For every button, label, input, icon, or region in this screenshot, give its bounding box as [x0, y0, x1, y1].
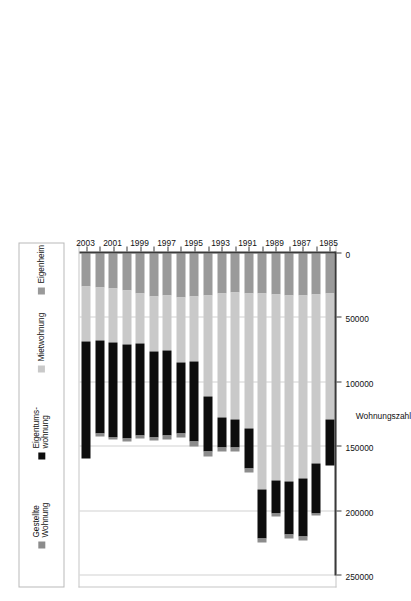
bar-segment-eigentumswohnung — [162, 350, 171, 435]
value-tick — [336, 316, 341, 317]
category-tick-label: 1999 — [130, 237, 149, 247]
category-tick-label: 2001 — [102, 237, 121, 247]
bar-segment-mietwohnung — [176, 297, 185, 363]
category-tick-label: 2003 — [75, 237, 94, 247]
value-tick — [336, 252, 341, 253]
legend-label: Eigenheim — [36, 244, 45, 283]
category-tick — [208, 246, 209, 251]
bar-stack — [298, 242, 307, 586]
category-tick — [99, 246, 100, 251]
value-tick-label: 50000 — [345, 313, 368, 323]
bar-segment-eigentumswohnung — [135, 343, 144, 435]
bar-segment-gestellte-wohnung — [108, 437, 117, 440]
bar-stack — [108, 242, 117, 586]
bar-segment-mietwohnung — [311, 294, 320, 463]
bar-segment-eigenheim — [95, 253, 104, 287]
category-tick-label: 1997 — [157, 237, 176, 247]
bar-segment-gestellte-wohnung — [311, 513, 320, 516]
bar-segment-eigenheim — [203, 253, 212, 295]
bar-segment-mietwohnung — [217, 293, 226, 417]
legend-item-eigenheim: Eigenheim — [36, 244, 45, 294]
bar-segment-eigenheim — [284, 253, 293, 295]
legend-swatch-icon — [38, 287, 45, 294]
value-tick-label: 250000 — [345, 571, 373, 581]
bar-segment-gestellte-wohnung — [162, 435, 171, 439]
bar-segment-eigentumswohnung — [108, 342, 117, 437]
bar-segment-mietwohnung — [244, 293, 253, 428]
value-tick — [336, 510, 341, 511]
bar-segment-mietwohnung — [325, 293, 334, 419]
bar-segment-mietwohnung — [230, 292, 239, 418]
bar-segment-gestellte-wohnung — [298, 536, 307, 539]
bar-stack — [81, 242, 90, 586]
bar-stack — [284, 242, 293, 586]
bar-segment-eigenheim — [162, 253, 171, 295]
bar-segment-eigentumswohnung — [271, 480, 280, 513]
bar-stack — [95, 242, 104, 586]
category-tick-label: 1991 — [238, 237, 257, 247]
bar-stack — [325, 242, 334, 586]
bar-segment-eigenheim — [108, 253, 117, 288]
bar-stack — [189, 242, 198, 586]
bar-segment-eigentumswohnung — [122, 344, 131, 439]
bar-segment-eigenheim — [298, 253, 307, 295]
bar-segment-eigentumswohnung — [298, 478, 307, 536]
bar-segment-eigentumswohnung — [244, 428, 253, 469]
bar-stack — [162, 242, 171, 586]
chart-legend: Gestellte Wohnung Eigentums- wohnung Mie… — [18, 242, 64, 587]
bar-segment-eigentumswohnung — [176, 363, 185, 433]
category-tick-label: 1993 — [211, 237, 230, 247]
bar-segment-eigenheim — [149, 253, 158, 296]
value-tick-label: 0 — [345, 249, 350, 259]
bar-segment-eigentumswohnung — [95, 340, 104, 433]
value-tick-label: 100000 — [345, 378, 373, 388]
bar-segment-eigentumswohnung — [325, 419, 334, 465]
bar-segment-eigenheim — [122, 253, 131, 290]
category-tick — [126, 246, 127, 251]
category-tick — [153, 246, 154, 251]
legend-swatch-icon — [38, 541, 45, 548]
bar-stack — [203, 242, 212, 586]
bar-segment-eigenheim — [135, 253, 144, 293]
bar-stack — [311, 242, 320, 586]
bar-segment-mietwohnung — [162, 295, 171, 350]
bar-segment-mietwohnung — [122, 290, 131, 343]
value-tick — [336, 445, 341, 446]
category-tick — [235, 246, 236, 251]
bar-segment-eigenheim — [217, 253, 226, 293]
category-axis-line — [79, 251, 335, 253]
legend-swatch-icon — [38, 365, 45, 372]
category-tick — [316, 246, 317, 251]
category-tick-label: 1989 — [265, 237, 284, 247]
bar-segment-mietwohnung — [189, 296, 198, 362]
bar-segment-eigentumswohnung — [81, 341, 90, 458]
bar-segment-gestellte-wohnung — [203, 451, 212, 456]
bar-segment-mietwohnung — [95, 287, 104, 340]
legend-item-gestellte-wohnung: Gestellte Wohnung — [32, 502, 50, 548]
legend-item-eigentumswohnung: Eigentums- wohnung — [32, 407, 50, 459]
bar-stack — [217, 242, 226, 586]
bar-segment-gestellte-wohnung — [217, 447, 226, 452]
bar-stack — [122, 242, 131, 586]
bar-segment-gestellte-wohnung — [244, 468, 253, 472]
bar-segment-eigentumswohnung — [203, 396, 212, 451]
value-tick-label: 200000 — [345, 507, 373, 517]
bar-stack — [135, 242, 144, 586]
bar-segment-eigenheim — [244, 253, 253, 293]
bar-segment-mietwohnung — [257, 293, 266, 489]
category-tick — [180, 246, 181, 251]
bar-segment-gestellte-wohnung — [149, 437, 158, 440]
legend-label: Mietwohnung — [36, 312, 45, 361]
bar-segment-eigenheim — [311, 253, 320, 294]
value-tick — [336, 381, 341, 382]
bar-segment-gestellte-wohnung — [230, 447, 239, 451]
value-axis-title: Wohnungszahl — [355, 410, 410, 420]
bar-stack — [149, 242, 158, 586]
bar-segment-mietwohnung — [271, 294, 280, 480]
plot-frame — [78, 242, 336, 587]
value-tick — [336, 574, 341, 575]
bar-stack — [176, 242, 185, 586]
bar-segment-eigenheim — [325, 253, 334, 293]
